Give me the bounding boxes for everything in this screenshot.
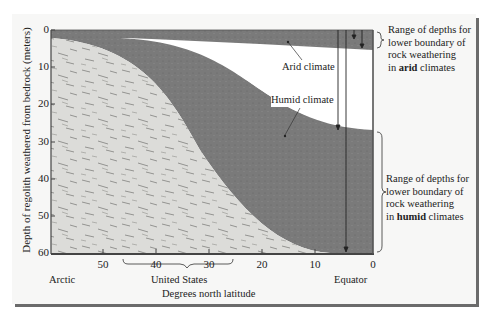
arid-range-brace xyxy=(377,32,384,48)
humid-range-annotation: Range of depths for lower boundary of ro… xyxy=(386,173,469,223)
y-tick-40: 40 xyxy=(31,172,49,184)
y-tick-0: 0 xyxy=(31,23,49,35)
y-tick-10: 10 xyxy=(31,60,49,72)
x-tick-0: 0 xyxy=(361,258,385,270)
y-tick-20: 20 xyxy=(31,97,49,109)
humid-leader-dot xyxy=(284,135,286,137)
x-tick-10: 10 xyxy=(303,258,327,270)
x-tick-30: 30 xyxy=(197,258,221,270)
arctic-label: Arctic xyxy=(49,274,75,287)
y-tick-50: 50 xyxy=(31,209,49,221)
equator-label: Equator xyxy=(334,274,367,287)
x-axis-label: Degrees north latitude xyxy=(162,288,255,301)
x-tick-40: 40 xyxy=(144,258,168,270)
arid-leader-dot xyxy=(287,41,289,43)
united-states-label: United States xyxy=(151,274,207,287)
y-tick-60: 60 xyxy=(31,246,49,258)
humid-climate-label: Humid climate xyxy=(271,94,334,107)
x-tick-20: 20 xyxy=(250,258,274,270)
y-tick-30: 30 xyxy=(31,135,49,147)
humid-range-brace xyxy=(377,132,386,252)
arid-range-annotation: Range of depths for lower boundary of ro… xyxy=(388,24,471,74)
y-axis-label: Depth of regolith weathered from bedrock… xyxy=(20,27,32,252)
arid-climate-label: Arid climate xyxy=(282,61,335,74)
x-tick-50: 50 xyxy=(91,258,115,270)
